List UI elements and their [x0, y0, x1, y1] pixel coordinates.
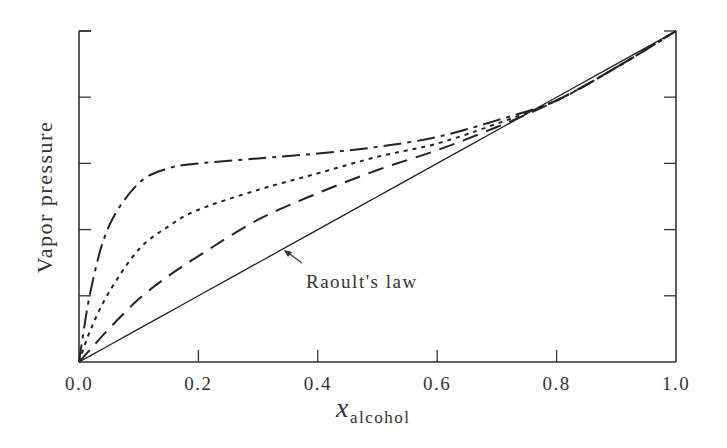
x-tick-label: 0.0: [65, 373, 93, 394]
vapor-pressure-chart: 0.00.20.40.60.81.0 Raoult's law Vapor pr…: [0, 0, 727, 448]
arrow-head-icon: [284, 250, 292, 257]
x-tick-label: 0.6: [423, 373, 451, 394]
curve-solid: [79, 31, 676, 362]
x-axis-title-main: x: [335, 392, 350, 423]
x-axis-title: xalcohol: [335, 392, 410, 427]
x-tick-label: 0.8: [542, 373, 570, 394]
raoult-label: Raoult's law: [306, 271, 418, 292]
y-axis-title: Vapor pressure: [32, 121, 57, 273]
raoult-annotation: Raoult's law: [284, 250, 418, 292]
x-tick-label: 0.2: [184, 373, 212, 394]
x-tick-label: 1.0: [662, 373, 690, 394]
x-axis-title-sub: alcohol: [350, 408, 411, 427]
x-tick-label: 0.4: [304, 373, 332, 394]
x-tick-labels: 0.00.20.40.60.81.0: [65, 373, 690, 394]
curves: [79, 31, 676, 362]
